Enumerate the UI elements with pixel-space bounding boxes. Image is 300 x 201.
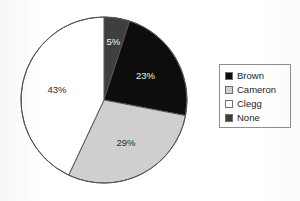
legend-item[interactable]: Brown — [225, 69, 290, 83]
pie-chart-svg: 5%23%29%43% — [18, 6, 194, 196]
legend-label-brown: Brown — [237, 71, 264, 81]
legend-label-clegg: Clegg — [237, 99, 262, 109]
legend-swatch-brown — [225, 72, 233, 80]
legend-label-cameron: Cameron — [237, 85, 276, 95]
legend: Brown Cameron Clegg None — [219, 64, 291, 128]
pie-chart-plot-area: 5%23%29%43% — [18, 6, 194, 196]
pie-slice-group — [21, 17, 187, 183]
legend-item[interactable]: Cameron — [225, 83, 290, 97]
pie-slice-label-clegg: 43% — [47, 84, 67, 95]
legend-swatch-cameron — [225, 86, 233, 94]
pie-chart-figure: 5%23%29%43% Brown Cameron Clegg None — [0, 0, 300, 201]
legend-item[interactable]: Clegg — [225, 97, 290, 111]
legend-swatch-none — [225, 114, 233, 122]
legend-label-none: None — [237, 113, 260, 123]
legend-item[interactable]: None — [225, 111, 290, 125]
legend-swatch-clegg — [225, 100, 233, 108]
pie-slice-label-none: 5% — [106, 36, 120, 47]
pie-slice-label-cameron: 29% — [116, 137, 136, 148]
pie-slice-label-brown: 23% — [136, 70, 156, 81]
